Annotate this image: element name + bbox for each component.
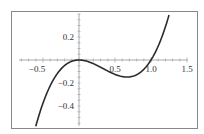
y-tick-label: −0.2 <box>58 78 74 88</box>
y-tick-label: 0.2 <box>63 32 74 42</box>
chart-canvas: −0.5 0.5 1.0 1.5 0.2 −0.2 −0.4 <box>0 0 204 134</box>
y-tick-label: −0.4 <box>58 101 75 111</box>
x-tick-label: 1.5 <box>181 64 193 74</box>
x-tick-label: −0.5 <box>29 64 46 74</box>
